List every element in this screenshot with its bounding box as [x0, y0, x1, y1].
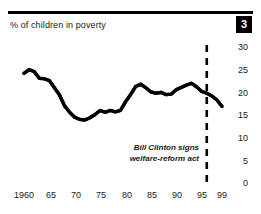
x-tick-label: 90: [172, 190, 182, 200]
x-tick-label: 80: [122, 190, 132, 200]
x-tick-label: 99: [217, 190, 227, 200]
x-tick-label: 1960: [14, 190, 34, 200]
x-tick-label: 95: [197, 190, 207, 200]
x-tick-label: 65: [46, 190, 56, 200]
x-tick-label: 70: [71, 190, 81, 200]
x-tick-label: 85: [147, 190, 157, 200]
x-axis-labels: 1960 65 70 75 80 85 90 95 99: [0, 0, 261, 214]
poverty-chart-figure: % of children in poverty 3 Bill Clinton …: [0, 0, 261, 214]
x-tick-label: 75: [96, 190, 106, 200]
